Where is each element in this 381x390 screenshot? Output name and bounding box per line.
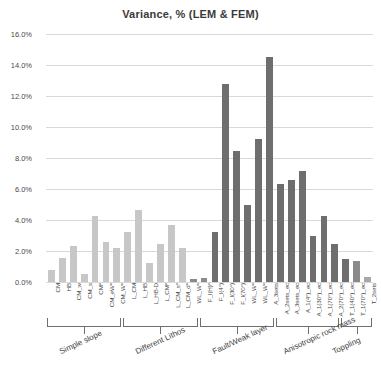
bar xyxy=(342,259,349,282)
x-axis-category-label: F_I(4°) xyxy=(217,283,224,301)
x-axis-category-label: CM_W* xyxy=(119,283,126,304)
bar xyxy=(299,171,306,282)
y-axis-tick-label: 2.0% xyxy=(0,247,32,256)
y-axis-tick-label: 4.0% xyxy=(0,216,32,225)
bar xyxy=(222,84,229,282)
x-axis-category-label: WL_W* xyxy=(261,283,268,303)
x-axis-category-label: A_3sets xyxy=(272,283,279,305)
x-axis-category-label: WL_W* xyxy=(195,283,202,303)
x-axis-category-label: A_2sets_ec xyxy=(283,283,290,314)
y-axis-tick-label: 8.0% xyxy=(0,154,32,163)
y-axis-tick-label: 10.0% xyxy=(0,123,32,132)
y-axis-tick-label: 6.0% xyxy=(0,185,32,194)
bar xyxy=(288,180,295,282)
bar xyxy=(179,248,186,282)
x-axis-category-label: T_2sets xyxy=(370,283,377,304)
bar xyxy=(59,258,66,282)
x-axis-category-label: T_1(70°)_ec xyxy=(359,283,366,316)
bar xyxy=(266,57,273,282)
group-names: Simple slopeDifferent LithosFault/Weak l… xyxy=(46,332,373,390)
bar xyxy=(364,277,371,282)
plot-area: 0.0%2.0%4.0%6.0%8.0%10.0%12.0%14.0%16.0% xyxy=(46,34,373,282)
x-axis-category-label: HB xyxy=(65,283,72,291)
bar xyxy=(201,278,208,282)
x-axis-category-label: A_1(70°)_ec xyxy=(326,283,333,316)
group-name: Toppling xyxy=(331,335,362,356)
y-axis-tick-label: 12.0% xyxy=(0,92,32,101)
x-axis-category-label: F_I(70°) xyxy=(239,283,246,305)
x-axis-category-label: CM xyxy=(54,283,61,292)
bar xyxy=(212,232,219,282)
x-axis-category-label: L_CM_d* xyxy=(184,283,191,308)
bar xyxy=(103,242,110,282)
x-axis-category-label: A_1(30°)_ec xyxy=(315,283,322,316)
x-axis-category-label: L_CM xyxy=(130,283,137,299)
x-axis-category-label: L_HB xyxy=(141,283,148,298)
bar xyxy=(168,225,175,282)
x-axis-category-label: L_HB-D xyxy=(152,283,159,304)
y-axis-tick-label: 14.0% xyxy=(0,61,32,70)
bars-layer xyxy=(46,34,373,282)
y-axis-tick-label: 16.0% xyxy=(0,30,32,39)
variance-bar-chart: Variance, % (LEM & FEM) 0.0%2.0%4.0%6.0%… xyxy=(0,0,381,390)
x-axis-category-label: A_3sets_ec xyxy=(293,283,300,314)
group-name: Simple slope xyxy=(58,329,103,357)
group-bracket xyxy=(123,318,197,327)
x-axis-category-label: F_I(30°) xyxy=(228,283,235,305)
bar xyxy=(113,248,120,282)
bar xyxy=(233,151,240,282)
x-axis-category-label: CM_w xyxy=(75,283,82,300)
bar xyxy=(331,244,338,282)
bar xyxy=(146,263,153,282)
group-bracket xyxy=(47,318,121,327)
bar xyxy=(135,210,142,282)
bar xyxy=(255,139,262,282)
bar xyxy=(70,246,77,282)
x-axis-category-label: A_1(4°)_ec xyxy=(304,283,311,313)
bar xyxy=(48,270,55,282)
bar xyxy=(277,184,284,282)
bar xyxy=(124,232,131,282)
x-axis-category-label: A_2(70°)_ec xyxy=(337,283,344,316)
x-axis-category-label: CM_eW* xyxy=(108,283,115,307)
bar xyxy=(353,261,360,282)
x-axis-category-label: F_I(H)* xyxy=(206,283,213,302)
x-axis-category-label: T_1(40°)_ec xyxy=(348,283,355,316)
x-axis-category-labels: CMHBCM_wCM_sCM*CM_eW*CM_W*L_CML_HBL_HB-D… xyxy=(46,283,373,317)
bar xyxy=(190,279,197,282)
bar xyxy=(244,205,251,282)
x-axis-category-label: CM* xyxy=(97,283,104,295)
bar xyxy=(157,244,164,282)
y-axis-tick-label: 0.0% xyxy=(0,278,32,287)
x-axis-category-label: L_CM_s* xyxy=(174,283,181,308)
bar xyxy=(310,236,317,283)
chart-title: Variance, % (LEM & FEM) xyxy=(0,8,381,20)
bar xyxy=(321,216,328,282)
x-axis-category-label: L_CM* xyxy=(163,283,170,301)
x-axis-category-label: WL_W* xyxy=(250,283,257,303)
bar xyxy=(92,216,99,282)
x-axis-category-label: CM_s xyxy=(86,283,93,299)
bar xyxy=(81,274,88,282)
